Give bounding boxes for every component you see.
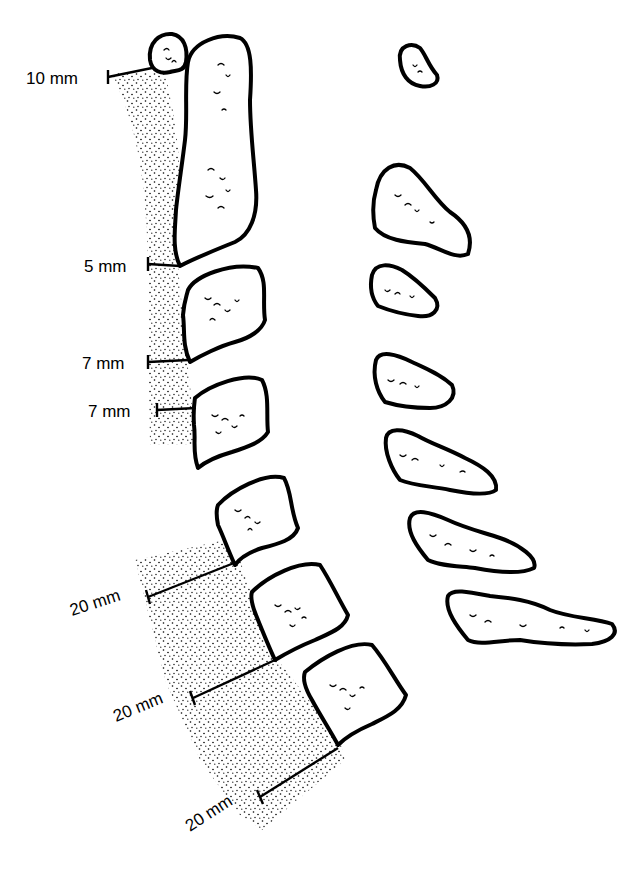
c1-spinous [400,45,438,86]
c5-spinous [386,430,496,494]
cervical-spine-diagram: 10 mm 5 mm 7 mm 7 mm 20 mm 20 mm 20 mm [0,0,641,871]
label-c4: 7 mm [88,402,131,421]
c3-body [183,267,265,362]
c1-anterior-arch [150,34,187,73]
label-c3: 7 mm [82,354,125,373]
c7-spinous [447,591,614,644]
label-c6: 20 mm [110,689,165,726]
c5-body [217,477,299,565]
label-c1: 10 mm [26,69,78,88]
c6-spinous [409,512,534,572]
c4-spinous [375,354,454,408]
label-c5: 20 mm [67,586,122,620]
c2-spinous [373,165,470,256]
c3-spinous [371,265,437,316]
c4-body [194,378,268,468]
c2-body [175,36,257,266]
label-c2: 5 mm [84,257,127,276]
label-c7: 20 mm [182,791,236,835]
